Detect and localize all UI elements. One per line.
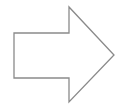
right-arrow-icon bbox=[14, 7, 114, 102]
arrow-diagram bbox=[0, 0, 122, 109]
